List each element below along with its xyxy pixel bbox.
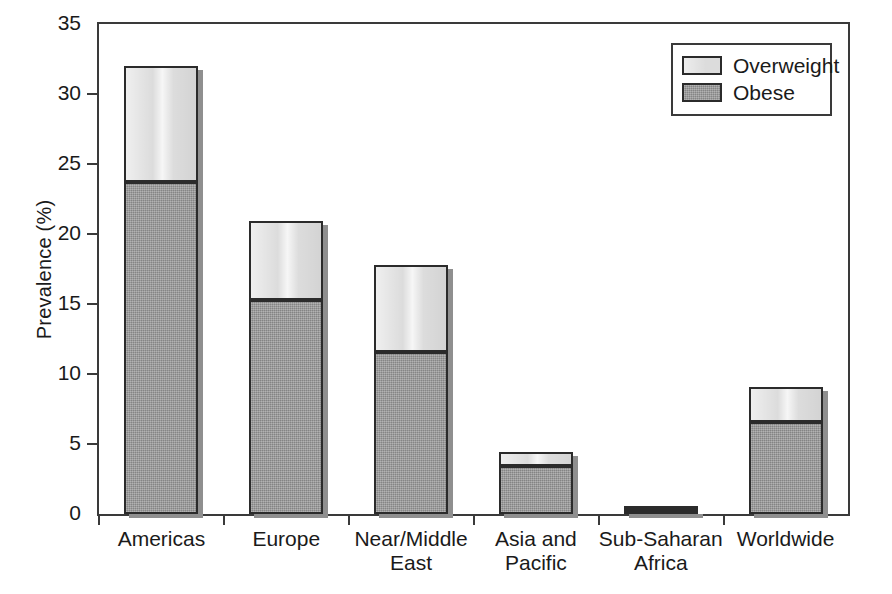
bar-shadow — [629, 514, 703, 518]
bar-segment-obese[interactable] — [249, 300, 323, 514]
bar-stack[interactable] — [249, 221, 323, 514]
x-tick-mark — [223, 514, 225, 525]
bar-segment-overweight[interactable] — [124, 66, 198, 182]
bar-segment-overweight[interactable] — [374, 265, 448, 352]
y-axis-title: Prevalence (%) — [33, 130, 56, 410]
x-axis-label: Asia and Pacific — [474, 527, 599, 574]
bar-stack[interactable] — [749, 387, 823, 514]
x-tick-mark — [598, 514, 600, 525]
bar-segment-obese[interactable] — [749, 422, 823, 514]
y-tick-label: 20 — [58, 221, 81, 245]
bar-segment-obese[interactable] — [499, 466, 573, 514]
bar-segment-overweight[interactable] — [249, 221, 323, 299]
x-axis-label: Sub-Saharan Africa — [598, 527, 723, 574]
bar-group — [249, 24, 323, 514]
y-tick-label: 25 — [58, 151, 81, 175]
bar-segment-obese[interactable] — [374, 352, 448, 514]
x-tick-mark — [98, 514, 100, 525]
bar-segment-obese[interactable] — [124, 182, 198, 514]
x-axis-label: Near/Middle East — [349, 527, 474, 574]
x-axis-label: Europe — [224, 527, 349, 551]
bar-group — [124, 24, 198, 514]
y-tick-label: 30 — [58, 81, 81, 105]
legend-item-overweight: Overweight — [682, 52, 821, 79]
bar-segment-obese[interactable] — [624, 510, 698, 514]
light-gray-swatch-icon — [682, 56, 722, 75]
chart-legend: Overweight Obese — [671, 43, 832, 116]
dark-gray-swatch-icon — [682, 83, 722, 102]
bar-segment-overweight[interactable] — [499, 452, 573, 466]
bar-stack[interactable] — [624, 506, 698, 514]
legend-item-obese: Obese — [682, 79, 821, 106]
x-axis-label: Worldwide — [723, 527, 848, 551]
bar-group — [499, 24, 573, 514]
bar-stack[interactable] — [374, 265, 448, 514]
x-tick-mark — [473, 514, 475, 525]
bar-stack[interactable] — [124, 66, 198, 514]
y-tick-label: 5 — [69, 431, 81, 455]
bar-group — [374, 24, 448, 514]
legend-label-obese: Obese — [733, 81, 795, 105]
y-tick-label: 0 — [69, 501, 81, 525]
x-tick-mark — [348, 514, 350, 525]
prevalence-bar-chart: Prevalence (%) 05101520253035 AmericasEu… — [0, 0, 892, 594]
y-tick-label: 15 — [58, 291, 81, 315]
bar-stack[interactable] — [499, 452, 573, 514]
bar-segment-overweight[interactable] — [749, 387, 823, 422]
y-tick-label: 10 — [58, 361, 81, 385]
legend-label-overweight: Overweight — [733, 54, 839, 78]
y-tick-label: 35 — [58, 11, 81, 35]
x-tick-mark — [723, 514, 725, 525]
x-axis-label: Americas — [99, 527, 224, 551]
